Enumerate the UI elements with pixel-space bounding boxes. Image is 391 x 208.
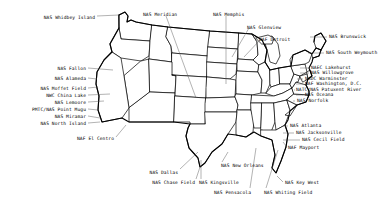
leader-line-nas-new-orleans bbox=[222, 152, 228, 162]
station-label-nas-glenview: NAS Glenview bbox=[247, 25, 281, 30]
station-label-nas-alameda: NAS Alameda bbox=[55, 76, 86, 81]
station-label-nas-south-weymouth: NAS South Weymouth bbox=[326, 50, 377, 55]
station-label-nas-key-west: NAS Key West bbox=[285, 180, 319, 185]
station-label-nwc-china-lake: NWC China Lake bbox=[46, 93, 86, 98]
leader-line-nas-whidbey-island bbox=[97, 15, 119, 16]
naval-air-stations-map: NAS Whidbey IslandNAS MeridianNAS Memphi… bbox=[0, 0, 391, 208]
station-label-nas-fallon: NAS Fallon bbox=[58, 66, 86, 71]
leader-line-nas-miramar bbox=[88, 116, 100, 118]
station-label-nas-dallas: NAS Dallas bbox=[150, 170, 178, 175]
station-label-nas-north-island: NAS North Island bbox=[40, 121, 86, 126]
station-label-nas-moffet-field: NAS Moffet Field bbox=[40, 86, 86, 91]
leader-line-nas-dallas bbox=[180, 152, 198, 169]
station-label-nas-atlanta: NAS Atlanta bbox=[290, 123, 321, 128]
station-label-naf-el-centro: NAF El Centro bbox=[77, 136, 114, 141]
station-label-naf-mayport: NAF Mayport bbox=[288, 145, 319, 150]
station-label-nas-norfolk: NAS Norfolk bbox=[297, 98, 328, 103]
station-label-nas-chase-field: NAS Chase Field bbox=[152, 180, 195, 185]
station-label-nas-whidbey-island: NAS Whidbey Island bbox=[44, 15, 95, 20]
station-label-nas-pensacola: NAS Pensacola bbox=[214, 190, 251, 195]
leader-line-nas-key-west bbox=[277, 176, 283, 182]
station-label-nas-brunswick: NAS Brunswick bbox=[329, 34, 366, 39]
station-label-nas-willowgrove: NAS Willowgrove bbox=[311, 70, 354, 75]
station-label-nas-miramar: NAS Miramar bbox=[55, 114, 86, 119]
station-label-naf-detroit: NAF Detroit bbox=[259, 37, 290, 42]
station-label-nas-memphis: NAS Memphis bbox=[213, 12, 244, 17]
leader-line-pmtc-nas-point-mugu bbox=[88, 109, 98, 110]
station-label-pmtc-nas-point-mugu: PMTC/NAS Point Mugu bbox=[32, 107, 86, 112]
leader-line-nas-north-island bbox=[88, 122, 100, 123]
leader-line-nas-chase-field bbox=[196, 167, 200, 179]
station-label-nas-whiting-field: NAS Whiting Field bbox=[264, 190, 312, 195]
station-label-nas-lemoore: NAS Lemoore bbox=[55, 100, 86, 105]
station-label-naf-washington-dc: NAF Washington, D.C. bbox=[305, 81, 362, 86]
station-label-nas-cecil-field: NAS Cecil Field bbox=[302, 137, 345, 142]
station-label-nas-oceana: NAS Oceana bbox=[305, 92, 333, 97]
leader-line-naf-el-centro bbox=[116, 125, 126, 137]
leader-line-nas-alameda bbox=[88, 78, 97, 79]
station-label-nas-new-orleans: NAS New Orleans bbox=[221, 163, 264, 168]
station-label-nas-kingsville: NAS Kingsville bbox=[199, 180, 239, 185]
station-label-nas-meridian: NAS Meridian bbox=[143, 12, 177, 17]
station-label-nas-jacksonville: NAS Jacksonville bbox=[296, 130, 342, 135]
